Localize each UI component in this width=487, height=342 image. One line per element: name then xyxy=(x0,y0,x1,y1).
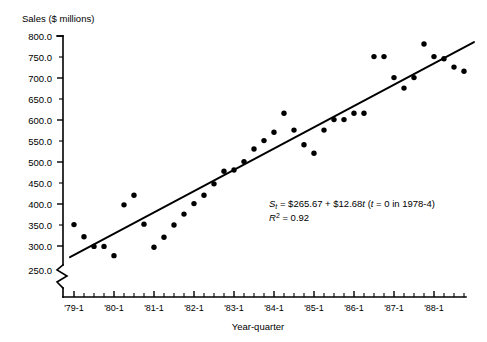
y-tick-label: 700.0 xyxy=(28,73,52,84)
regression-trend-line xyxy=(70,42,474,257)
y-axis-break-symbol xyxy=(57,265,67,288)
data-point xyxy=(391,75,396,80)
x-tick-label: '81-1 xyxy=(144,303,164,313)
data-point xyxy=(251,146,256,151)
data-point xyxy=(331,117,336,122)
r-squared-annotation: R2 = 0.92 xyxy=(269,212,309,224)
data-point xyxy=(311,150,316,155)
data-point xyxy=(341,117,346,122)
data-point xyxy=(91,244,96,249)
data-point xyxy=(81,234,86,239)
x-tick-label: '82-1 xyxy=(184,303,204,313)
sales-trend-chart: Sales ($ millions) 800.0 750.0 700.0 650… xyxy=(0,0,487,342)
data-point xyxy=(431,54,436,59)
x-tick-label: '80-1 xyxy=(104,303,124,313)
data-point xyxy=(201,192,206,197)
y-tick-label: 400.0 xyxy=(28,199,52,210)
data-point xyxy=(441,56,446,61)
data-point xyxy=(101,244,106,249)
y-tick-label: 450.0 xyxy=(28,178,52,189)
y-tick-label: 350.0 xyxy=(28,220,52,231)
y-tick-label: 800.0 xyxy=(28,31,52,42)
data-point xyxy=(371,54,376,59)
y-tick-label: 550.0 xyxy=(28,136,52,147)
data-point xyxy=(131,192,136,197)
data-point xyxy=(321,127,326,132)
data-point xyxy=(261,138,266,143)
chart-canvas: Sales ($ millions) 800.0 750.0 700.0 650… xyxy=(0,0,487,342)
data-point xyxy=(421,41,426,46)
y-tick-label: 750.0 xyxy=(28,52,52,63)
x-axis-ticks xyxy=(74,291,464,297)
r-value: = 0.92 xyxy=(280,212,309,223)
y-axis-tick-labels: 800.0 750.0 700.0 650.0 600.0 550.0 500.… xyxy=(28,31,52,276)
y-tick-label: 600.0 xyxy=(28,115,52,126)
data-point xyxy=(281,111,286,116)
x-axis-tick-labels: '79-1 '80-1 '81-1 '82-1 '83-1 '84-1 '85-… xyxy=(64,303,444,313)
data-point xyxy=(211,181,216,186)
x-tick-label: '86-1 xyxy=(344,303,364,313)
data-point xyxy=(271,129,276,134)
equation-body: = $265.67 + $12.68 xyxy=(277,198,362,209)
data-point xyxy=(221,169,226,174)
y-tick-label: 300.0 xyxy=(28,241,52,252)
y-tick-label: 650.0 xyxy=(28,94,52,105)
x-tick-label: '79-1 xyxy=(64,303,84,313)
data-point xyxy=(171,222,176,227)
x-tick-label: '87-1 xyxy=(384,303,404,313)
data-point xyxy=(141,221,146,226)
data-point xyxy=(451,64,456,69)
data-point xyxy=(351,111,356,116)
data-point xyxy=(191,201,196,206)
data-point xyxy=(401,85,406,90)
regression-equation-annotation: St = $265.67 + $12.68t (t = 0 in 1978-4) xyxy=(269,198,435,210)
data-point xyxy=(411,75,416,80)
data-point xyxy=(301,142,306,147)
data-point xyxy=(241,159,246,164)
data-point xyxy=(361,111,366,116)
data-point xyxy=(161,234,166,239)
x-tick-label: '84-1 xyxy=(264,303,284,313)
x-tick-label: '85-1 xyxy=(304,303,324,313)
y-tick-label: 250.0 xyxy=(28,265,52,276)
data-point xyxy=(461,69,466,74)
data-point xyxy=(151,245,156,250)
data-point xyxy=(291,127,296,132)
equation-paren-rest: = 0 in 1978-4) xyxy=(373,198,435,209)
data-point xyxy=(121,202,126,207)
data-point xyxy=(181,211,186,216)
data-point xyxy=(231,167,236,172)
data-point xyxy=(71,222,76,227)
data-point xyxy=(111,253,116,258)
y-tick-label: 500.0 xyxy=(28,157,52,168)
x-tick-label: '88-1 xyxy=(424,303,444,313)
y-axis-title: Sales ($ millions) xyxy=(22,13,94,24)
data-point xyxy=(381,54,386,59)
x-axis-title: Year-quarter xyxy=(232,321,284,332)
x-tick-label: '83-1 xyxy=(224,303,244,313)
